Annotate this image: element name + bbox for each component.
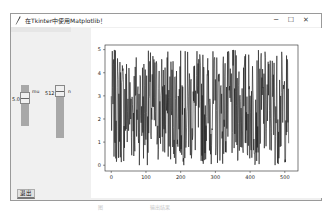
caption-right: 输出结果 <box>150 203 170 210</box>
svg-text:2: 2 <box>98 116 101 122</box>
title-bar[interactable]: 在Tkinter中使用Matplotlib！ ─ ☐ ✕ <box>11 14 321 27</box>
svg-text:1: 1 <box>98 139 101 145</box>
quit-button[interactable]: 退出 <box>17 189 35 199</box>
svg-text:500: 500 <box>280 174 290 180</box>
mu-slider-label: mu <box>32 89 39 94</box>
svg-text:3: 3 <box>98 93 101 99</box>
line-chart: 0100200300400500012345 <box>91 28 323 198</box>
window-title: 在Tkinter中使用Matplotlib！ <box>25 16 106 25</box>
toolbar-strip <box>11 27 71 32</box>
mu-slider-value: 5.0 <box>12 96 20 102</box>
svg-text:0: 0 <box>110 174 113 180</box>
svg-text:200: 200 <box>176 174 186 180</box>
mu-slider[interactable] <box>21 85 29 126</box>
maximize-button[interactable]: ☐ <box>284 15 298 26</box>
n-slider-thumb[interactable] <box>55 85 65 97</box>
n-slider-label: n <box>68 89 71 94</box>
mu-slider-thumb[interactable] <box>20 92 30 104</box>
svg-text:400: 400 <box>245 174 255 180</box>
close-button[interactable]: ✕ <box>299 15 313 26</box>
feather-icon <box>15 16 21 25</box>
svg-text:4: 4 <box>98 70 101 76</box>
svg-text:5: 5 <box>98 46 101 52</box>
svg-text:300: 300 <box>211 174 221 180</box>
svg-text:0: 0 <box>98 162 101 168</box>
app-window: 在Tkinter中使用Matplotlib！ ─ ☐ ✕ 5.0 mu 512 … <box>10 13 322 201</box>
caption-left: 图 <box>98 203 103 210</box>
n-slider-value: 512 <box>45 90 55 96</box>
minimize-button[interactable]: ─ <box>269 15 283 26</box>
plot-canvas[interactable]: 0100200300400500012345 <box>91 28 323 198</box>
svg-text:100: 100 <box>141 174 151 180</box>
n-slider[interactable] <box>56 85 64 138</box>
